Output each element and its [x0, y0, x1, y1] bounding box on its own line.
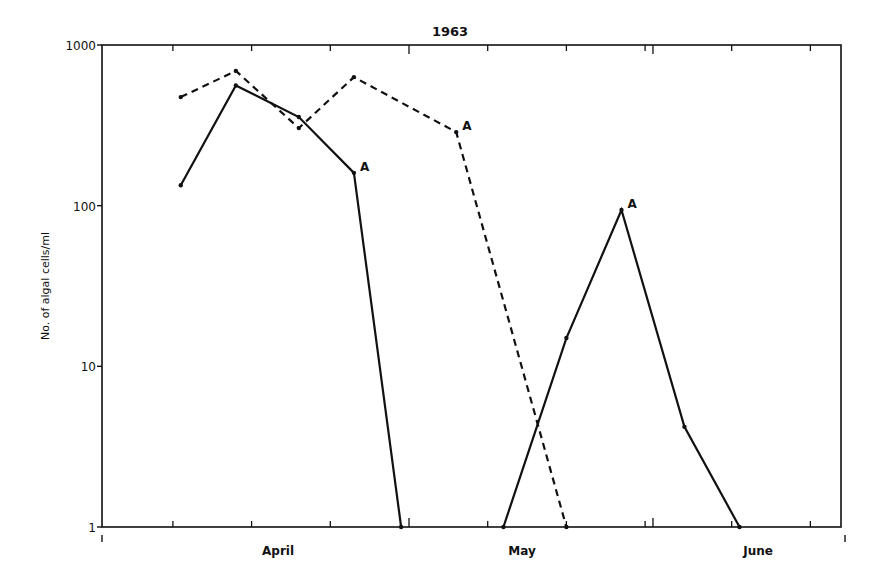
- data-point: [619, 208, 623, 212]
- chart-title: 1963: [432, 24, 468, 39]
- x-axis-ticks: AprilMayJune: [102, 45, 845, 558]
- data-series: AAA: [179, 69, 742, 530]
- point-annotation: A: [360, 160, 370, 174]
- data-point: [501, 525, 505, 529]
- data-point: [564, 525, 568, 529]
- y-tick-label: 10: [81, 360, 96, 374]
- data-point: [297, 115, 301, 119]
- series-line-2: [181, 71, 567, 527]
- point-annotation: A: [462, 119, 472, 133]
- y-tick-label: 1000: [65, 39, 96, 53]
- y-axis-ticks: 1101001000: [65, 39, 102, 535]
- x-month-label: June: [742, 544, 773, 558]
- plot-axes: [102, 45, 841, 527]
- algal-cells-chart: 1963 1101001000 AprilMayJune No. of alga…: [0, 0, 881, 581]
- series-line-1: [181, 85, 401, 527]
- data-point: [737, 525, 741, 529]
- point-annotation: A: [627, 197, 637, 211]
- data-point: [234, 69, 238, 73]
- data-point: [179, 183, 183, 187]
- y-axis-label: No. of algal cells/ml: [39, 232, 52, 340]
- data-point: [564, 336, 568, 340]
- x-month-label: April: [262, 544, 294, 558]
- y-tick-label: 100: [73, 200, 96, 214]
- data-point: [399, 525, 403, 529]
- series-line-3: [503, 210, 739, 527]
- data-point: [352, 171, 356, 175]
- plot-frame: [102, 45, 841, 527]
- x-month-label: May: [508, 544, 536, 558]
- data-point: [179, 95, 183, 99]
- data-point: [352, 75, 356, 79]
- data-point: [454, 130, 458, 134]
- data-point: [297, 126, 301, 130]
- data-point: [234, 83, 238, 87]
- y-tick-label: 1: [88, 521, 96, 535]
- data-point: [682, 425, 686, 429]
